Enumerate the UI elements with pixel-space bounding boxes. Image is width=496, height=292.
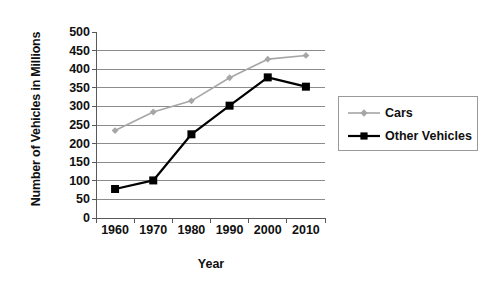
gridlines [96, 51, 325, 218]
legend-label-other-vehicles: Other Vehicles [385, 129, 472, 143]
x-axis-tick-label: 2010 [285, 224, 327, 237]
data-point [302, 83, 310, 91]
data-point [264, 73, 272, 81]
x-axis-ticks [96, 218, 325, 223]
chart-legend: Cars Other Vehicles [338, 96, 478, 151]
data-series-layer [111, 52, 310, 193]
data-point [187, 130, 195, 138]
data-point [111, 185, 119, 193]
data-point [264, 56, 271, 63]
data-point [226, 74, 233, 81]
x-axis-tick-labels: 196019701980199020002010 [96, 224, 326, 244]
x-axis-tick-label: 2000 [247, 224, 289, 237]
data-point [112, 127, 119, 134]
legend-marker-other-vehicles [347, 129, 381, 143]
x-axis-tick-label: 1990 [209, 224, 251, 237]
data-point [188, 97, 195, 104]
x-axis-tick-label: 1970 [132, 224, 174, 237]
x-axis-title: Year [96, 257, 326, 271]
line-chart: Number of Vehicles in Millions 050100150… [0, 0, 496, 292]
x-axis-tick-label: 1980 [170, 224, 212, 237]
data-point [226, 102, 234, 110]
legend-label-cars: Cars [385, 106, 413, 120]
legend-marker-cars [347, 106, 381, 120]
data-point [303, 52, 310, 59]
legend-item-cars[interactable]: Cars [339, 102, 479, 124]
x-axis-tick-label: 1960 [94, 224, 136, 237]
data-point [150, 109, 157, 116]
legend-item-other-vehicles[interactable]: Other Vehicles [339, 125, 479, 147]
data-point [149, 176, 157, 184]
